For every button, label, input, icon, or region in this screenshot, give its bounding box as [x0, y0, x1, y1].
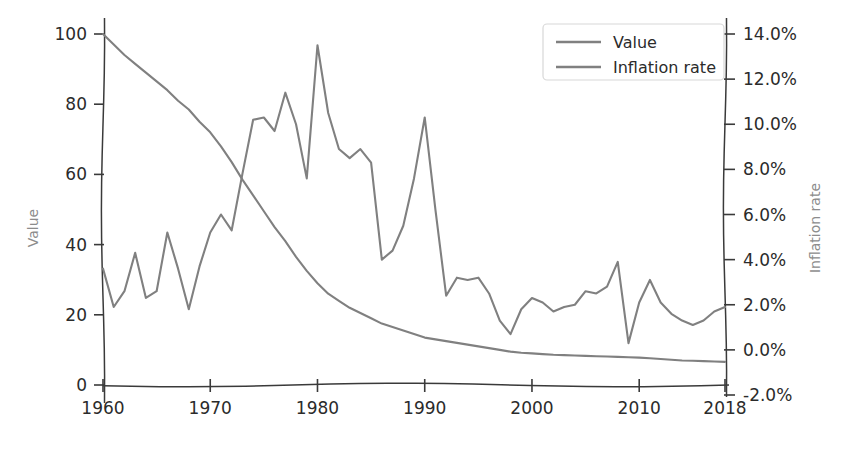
- x-tick-label: 1960: [81, 398, 124, 418]
- right-tick-label: 2.0%: [743, 295, 786, 315]
- right-tick-label: 12.0%: [743, 69, 797, 89]
- left-tick-label: 60: [65, 164, 87, 184]
- x-tick-label: 1970: [189, 398, 232, 418]
- right-tick-label: 6.0%: [743, 205, 786, 225]
- chart-canvas: 020406080100 -2.0%0.0%2.0%4.0%6.0%8.0%10…: [0, 0, 844, 454]
- left-axis-spine: [101, 18, 104, 403]
- x-tick-label: 1980: [296, 398, 339, 418]
- chart-figure: 020406080100 -2.0%0.0%2.0%4.0%6.0%8.0%10…: [0, 0, 844, 454]
- right-tick-label: 0.0%: [743, 340, 786, 360]
- series-lines: [103, 34, 725, 362]
- left-tick-label: 100: [55, 24, 87, 44]
- left-tick-label: 0: [76, 375, 87, 395]
- right-tick-label: 4.0%: [743, 250, 786, 270]
- legend-entry-label: Value: [613, 33, 657, 52]
- bottom-axis-spine: [103, 383, 729, 387]
- right-axis-title: Inflation rate: [807, 183, 823, 273]
- series-line-value: [103, 34, 725, 362]
- right-tick-label: 8.0%: [743, 159, 786, 179]
- x-tick-label: 2018: [703, 398, 746, 418]
- x-tick-label: 1990: [403, 398, 446, 418]
- left-axis-ticks: 020406080100: [55, 24, 104, 395]
- left-tick-label: 40: [65, 235, 87, 255]
- axis-titles: ValueInflation rate: [25, 183, 823, 273]
- left-tick-label: 80: [65, 94, 87, 114]
- left-axis-title: Value: [25, 209, 41, 247]
- x-tick-label: 2000: [510, 398, 553, 418]
- right-axis-ticks: -2.0%0.0%2.0%4.0%6.0%8.0%10.0%12.0%14.0%: [724, 24, 797, 405]
- right-tick-label: -2.0%: [743, 385, 792, 405]
- right-tick-label: 14.0%: [743, 24, 797, 44]
- series-line-inflation-rate: [103, 45, 725, 343]
- x-axis-ticks: 1960197019801990200020102018: [81, 379, 746, 418]
- left-tick-label: 20: [65, 305, 87, 325]
- x-tick-label: 2010: [618, 398, 661, 418]
- chart-legend[interactable]: ValueInflation rate: [543, 24, 724, 80]
- right-tick-label: 10.0%: [743, 114, 797, 134]
- legend-entry-label: Inflation rate: [613, 58, 716, 77]
